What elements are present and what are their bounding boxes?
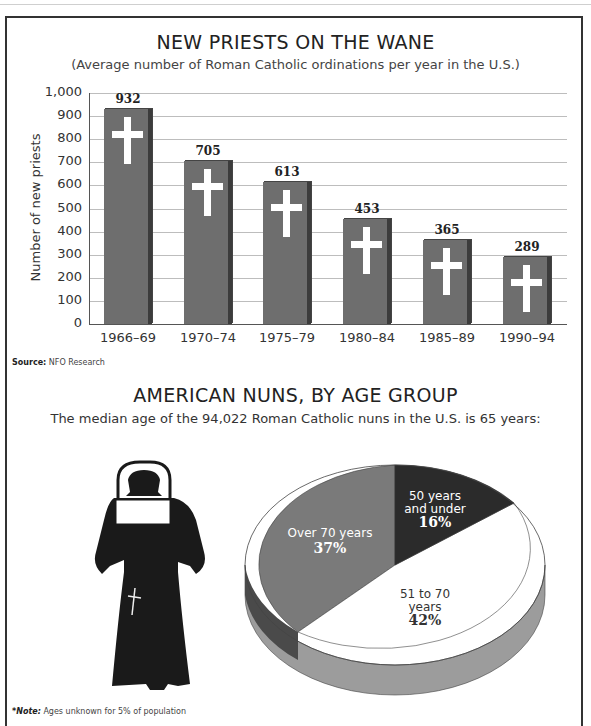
- cross-icon-bar: [192, 183, 223, 190]
- cross-icon-bar: [112, 131, 143, 138]
- y-tick-label: 1,000: [38, 84, 82, 99]
- gridline: [90, 209, 567, 210]
- x-tick-label: 1985–89: [407, 330, 487, 345]
- cross-icon: [124, 117, 131, 164]
- y-tick-label: 0: [38, 315, 82, 330]
- pie-label-50-under: 50 years and under 16%: [395, 490, 475, 529]
- pie-label-51-70: 51 to 70 years 42%: [385, 588, 465, 627]
- x-tick-label: 1970–74: [168, 330, 248, 345]
- x-tick-label: 1975–79: [247, 330, 327, 345]
- y-tick-label: 800: [38, 130, 82, 145]
- gridline: [90, 278, 567, 279]
- page-top-rule: [0, 4, 591, 5]
- pie-pct-51-70: 42%: [385, 614, 465, 627]
- gridline: [90, 255, 567, 256]
- bar-value-label: 453: [337, 202, 397, 216]
- cross-icon: [363, 227, 370, 274]
- source-note: Source: NFO Research: [12, 358, 105, 367]
- y-tick-label: 500: [38, 200, 82, 215]
- y-tick-label: 700: [38, 153, 82, 168]
- y-tick-label: 900: [38, 107, 82, 122]
- cross-icon-bar: [351, 241, 382, 248]
- pie-pct-50-under: 16%: [395, 516, 475, 529]
- cross-icon: [283, 190, 290, 237]
- y-tick-label: 300: [38, 246, 82, 261]
- x-tick-label: 1980–84: [327, 330, 407, 345]
- cross-icon: [443, 248, 450, 295]
- source-label: Source:: [12, 358, 46, 367]
- pie-pct-over-70: 37%: [280, 542, 380, 555]
- y-tick-label: 600: [38, 176, 82, 191]
- pie-label-over-70-line1: Over 70 years: [280, 527, 380, 540]
- note-text: Ages unknown for 5% of population: [43, 707, 186, 716]
- bar-value-label: 365: [417, 223, 477, 237]
- note-label: *Note:: [12, 707, 41, 716]
- pie-label-over-70: Over 70 years 37%: [280, 527, 380, 555]
- cross-icon: [523, 265, 530, 312]
- cross-icon-bar: [271, 204, 302, 211]
- y-axis-line: [89, 93, 90, 325]
- gridline: [90, 93, 567, 94]
- pie-chart-title: AMERICAN NUNS, BY AGE GROUP: [0, 384, 591, 406]
- bar-value-label: 932: [98, 92, 158, 106]
- x-axis-line: [89, 324, 567, 325]
- gridline: [90, 162, 567, 163]
- gridline: [90, 232, 567, 233]
- gridline: [90, 116, 567, 117]
- y-tick-label: 100: [38, 292, 82, 307]
- gridline: [90, 139, 567, 140]
- x-tick-label: 1966–69: [88, 330, 168, 345]
- gridline: [90, 185, 567, 186]
- cross-icon-bar: [431, 262, 462, 269]
- nun-figure-icon: [40, 440, 240, 710]
- gridline: [90, 301, 567, 302]
- bar-value-label: 613: [257, 165, 317, 179]
- pie-chart-subtitle: The median age of the 94,022 Roman Catho…: [0, 411, 591, 426]
- y-tick-label: 400: [38, 223, 82, 238]
- cross-icon: [204, 169, 211, 216]
- bar-chart-subtitle: (Average number of Roman Catholic ordina…: [0, 57, 591, 72]
- cross-icon-bar: [511, 279, 542, 286]
- bar-value-label: 289: [497, 240, 557, 254]
- footnote: *Note: Ages unknown for 5% of population: [12, 707, 186, 716]
- bar-value-label: 705: [178, 144, 238, 158]
- source-text: NFO Research: [49, 358, 105, 367]
- bar-chart-title: NEW PRIESTS ON THE WANE: [0, 31, 591, 53]
- x-tick-label: 1990–94: [487, 330, 567, 345]
- y-tick-label: 200: [38, 269, 82, 284]
